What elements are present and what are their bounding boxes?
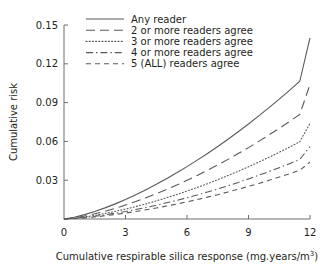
legend-label-1: 2 or more readers agree bbox=[131, 25, 253, 36]
y-tick-label: 0.12 bbox=[36, 58, 58, 69]
x-tick-label: 0 bbox=[61, 227, 67, 238]
y-tick-label: 0.09 bbox=[36, 97, 58, 108]
x-tick-label: 6 bbox=[184, 227, 190, 238]
legend-label-3: 4 or more readers agree bbox=[131, 47, 253, 58]
y-axis-tick-labels: 0.030.060.090.120.15 bbox=[36, 20, 58, 186]
line-chart: 0.030.060.090.120.15 036912 Cumulative r… bbox=[0, 0, 325, 268]
chart-legend: Any reader2 or more readers agree3 or mo… bbox=[86, 14, 253, 70]
legend-label-2: 3 or more readers agree bbox=[131, 36, 253, 47]
x-tick-label: 12 bbox=[304, 227, 317, 238]
y-axis-title: Cumulative risk bbox=[8, 83, 19, 161]
series-line-3 bbox=[64, 147, 310, 219]
series-line-4 bbox=[64, 162, 310, 219]
x-tick-label: 3 bbox=[122, 227, 128, 238]
legend-label-4: 5 (ALL) readers agree bbox=[131, 58, 239, 69]
y-axis-ticks bbox=[64, 25, 68, 180]
series-line-2 bbox=[64, 123, 310, 219]
x-axis-tick-labels: 036912 bbox=[61, 227, 317, 238]
legend-label-0: Any reader bbox=[131, 14, 187, 25]
y-tick-label: 0.15 bbox=[36, 20, 58, 31]
x-tick-label: 9 bbox=[245, 227, 251, 238]
y-tick-label: 0.03 bbox=[36, 175, 58, 186]
x-axis-ticks bbox=[126, 215, 311, 219]
chart-figure: 0.030.060.090.120.15 036912 Cumulative r… bbox=[0, 0, 325, 268]
x-axis-title: Cumulative respirable silica response (m… bbox=[56, 250, 319, 262]
y-tick-label: 0.06 bbox=[36, 136, 58, 147]
